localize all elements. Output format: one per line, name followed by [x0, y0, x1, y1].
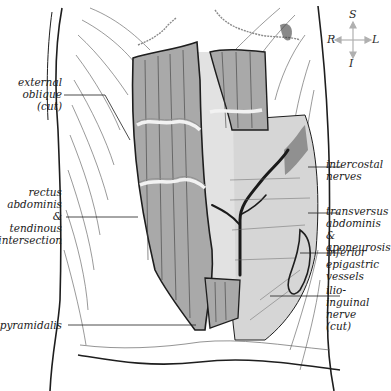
compass-left: L	[372, 33, 379, 46]
compass-superior: S	[349, 8, 357, 21]
fascia-cut-edge-top	[138, 10, 300, 45]
compass-right: R	[327, 33, 335, 46]
label-rectus-abdominis: rectus abdominis & tendinous intersectio…	[0, 186, 62, 246]
body-outline-right	[318, 6, 334, 391]
label-inferior-epigastric: inferior epigastric vessels	[326, 246, 379, 282]
orientation-compass	[335, 22, 371, 58]
label-pyramidalis: pyramidalis	[0, 319, 62, 331]
label-ilioinguinal-nerve: ilio- inguinal nerve (cut)	[326, 284, 369, 332]
label-intercostal-nerves: intercostal nerves	[326, 158, 383, 182]
compass-inferior: I	[349, 57, 353, 70]
label-external-oblique: external oblique (cut)	[18, 76, 62, 112]
